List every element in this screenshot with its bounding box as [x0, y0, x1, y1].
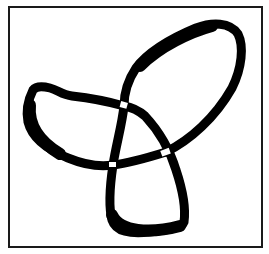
- trefoil-knot-diagram: [0, 0, 269, 254]
- knot-left-lobe-thick-section: [30, 105, 60, 154]
- crossing-gap-bottom-left: [109, 162, 116, 167]
- knot-left-lobe: [27, 87, 166, 166]
- knot-bottom-lobe-thick-section: [112, 215, 180, 231]
- knot-top-lobe-thick-section: [140, 26, 212, 66]
